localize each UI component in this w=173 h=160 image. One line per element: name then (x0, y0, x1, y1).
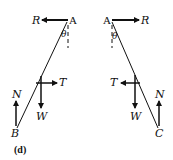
left-reaction-label: R (31, 14, 40, 27)
left-point-b-label: B (10, 127, 19, 140)
right-angle-label: θ (112, 31, 118, 41)
left-normal-label: N (11, 88, 22, 101)
left-point-a-label: A (69, 14, 77, 26)
right-ladder-diagram: R A θ T W N C (103, 14, 165, 140)
figure-caption: (d) (14, 144, 26, 156)
left-angle-label: θ (61, 29, 67, 39)
right-weight-label: W (130, 110, 143, 123)
right-reaction-label: R (140, 14, 149, 27)
right-point-a-label: A (103, 14, 111, 26)
force-diagram: R A θ N T W B R A θ T W N C (d) (0, 0, 173, 160)
left-tension-label: T (59, 76, 68, 89)
left-ladder-diagram: R A θ N T W B (10, 14, 77, 140)
right-point-c-label: C (155, 127, 164, 140)
right-normal-label: N (154, 88, 165, 101)
left-weight-label: W (36, 110, 49, 123)
right-tension-label: T (110, 76, 119, 89)
